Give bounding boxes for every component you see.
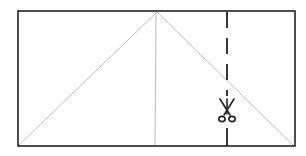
fold-line-right-diagonal <box>157 12 294 146</box>
fold-line-center-vertical <box>155 12 156 146</box>
scissors-icon <box>219 99 235 122</box>
fold-line-left-diagonal <box>19 12 157 145</box>
paper-outline <box>18 11 295 146</box>
folding-diagram <box>0 0 306 156</box>
